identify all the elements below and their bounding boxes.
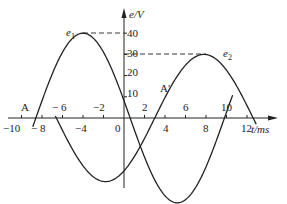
x-axis-label-text: t/ms	[251, 123, 269, 135]
x-tick-label-6: 6	[183, 102, 189, 113]
e1-label: e1	[66, 27, 75, 42]
x-axis-label: t/ms	[251, 124, 269, 135]
x-tick-label-m4: −4	[75, 123, 87, 134]
x-tick-label-12: 12	[241, 123, 252, 134]
e2-label: e2	[223, 48, 232, 63]
y-tick-label-40: 40	[127, 28, 138, 39]
x-tick-label-m6: − 6	[52, 102, 66, 113]
x-tick-label-8: 8	[203, 123, 209, 134]
y-axis-arrow-icon	[122, 8, 127, 18]
y-tick-label-10: 10	[127, 88, 138, 99]
point-a-prime-label: A′	[160, 83, 170, 94]
e1-label-sub: 1	[71, 32, 75, 41]
chart-area: e/V t/ms e1 e2 A A′ 40 30 20 10 −10 − 8 …	[0, 0, 287, 204]
y-axis-label-text: e/V	[129, 8, 144, 20]
e2-label-sub: 2	[228, 53, 232, 62]
x-tick-label-2: 2	[142, 102, 148, 113]
y-axis-label: e/V	[129, 9, 144, 20]
x-tick-label-4: 4	[163, 123, 169, 134]
point-a-label: A	[21, 102, 29, 113]
x-tick-label-m10: −10	[3, 123, 20, 134]
x-tick-label-m2: −2	[93, 102, 105, 113]
y-tick-label-30: 30	[127, 48, 138, 59]
x-tick-label-10: 10	[221, 102, 232, 113]
x-tick-label-m8: − 8	[31, 123, 45, 134]
x-tick-label-0: 0	[115, 123, 121, 134]
x-axis-arrow-icon	[268, 116, 278, 121]
y-tick-label-20: 20	[127, 67, 138, 78]
